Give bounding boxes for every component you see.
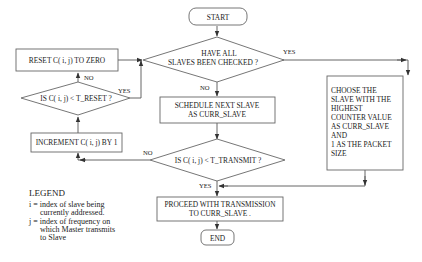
decision-reset-threshold: IS C( i, j) < T_RESET ? bbox=[21, 82, 130, 115]
proceed-line-2: TO CURR_SLAVE . bbox=[189, 209, 251, 218]
schedule-line-1: SCHEDULE NEXT SLAVE bbox=[175, 101, 260, 110]
edge-label-no: NO bbox=[200, 84, 210, 91]
end-terminator: END bbox=[201, 230, 234, 245]
edge-label-no: NO bbox=[84, 74, 94, 81]
transmit-check-label: IS C( i, j) < T_TRANSMIT ? bbox=[175, 156, 262, 165]
process-increment-counter: INCREMENT C( i, j) BY 1 bbox=[31, 133, 122, 152]
start-label: START bbox=[207, 13, 230, 22]
choose-line-2: SLAVE WITH THE bbox=[331, 95, 391, 104]
choose-line-7: 1 AS THE PACKET bbox=[331, 140, 392, 149]
proceed-line-1: PROCEED WITH TRANSMISSION bbox=[164, 200, 276, 209]
decision-line-2: SLAVES BEEN CHECKED ? bbox=[168, 58, 258, 67]
choose-line-8: SIZE bbox=[331, 149, 347, 158]
choose-line-1: CHOOSE THE bbox=[331, 86, 377, 95]
decision-all-slaves-checked: HAVE ALL SLAVES BEEN CHECKED ? bbox=[143, 37, 284, 82]
legend: LEGEND i = index of slave being currentl… bbox=[28, 188, 115, 242]
decision-transmit-threshold: IS C( i, j) < T_TRANSMIT ? bbox=[150, 139, 285, 181]
choose-line-4: COUNTER VALUE bbox=[331, 113, 392, 122]
choose-line-6: AND bbox=[331, 131, 348, 140]
edge-label-yes: YES bbox=[283, 48, 296, 55]
choose-line-5: AS CURR_SLAVE bbox=[331, 122, 389, 131]
edge-label-yes: YES bbox=[118, 87, 131, 94]
legend-line: to Slave bbox=[40, 233, 66, 242]
process-proceed-transmission: PROCEED WITH TRANSMISSION TO CURR_SLAVE … bbox=[157, 197, 283, 221]
reset-check-label: IS C( i, j) < T_RESET ? bbox=[40, 94, 111, 103]
decision-line-1: HAVE ALL bbox=[201, 49, 237, 58]
flowchart-canvas: START HAVE ALL SLAVES BEEN CHECKED ? YES… bbox=[0, 0, 422, 262]
reset-label: RESET C( i, j) TO ZERO bbox=[29, 56, 106, 65]
process-schedule-next-slave: SCHEDULE NEXT SLAVE AS CURR_SLAVE bbox=[160, 97, 275, 123]
process-choose-highest-counter: CHOOSE THE SLAVE WITH THE HIGHEST COUNTE… bbox=[327, 76, 403, 170]
increment-label: INCREMENT C( i, j) BY 1 bbox=[36, 138, 118, 147]
legend-title: LEGEND bbox=[29, 188, 65, 198]
end-label: END bbox=[210, 234, 226, 243]
start-terminator: START bbox=[189, 8, 247, 25]
edge-label-yes: YES bbox=[199, 182, 212, 189]
process-reset-counter: RESET C( i, j) TO ZERO bbox=[16, 49, 118, 71]
edge-label-no: NO bbox=[143, 149, 153, 156]
legend-line: currently addressed. bbox=[40, 208, 104, 217]
schedule-line-2: AS CURR_SLAVE bbox=[188, 110, 246, 119]
choose-line-3: HIGHEST bbox=[331, 104, 363, 113]
